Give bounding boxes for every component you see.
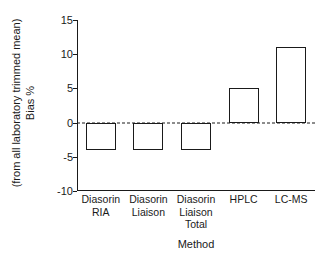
y-axis-tick-label: 10 <box>61 48 73 60</box>
x-axis-tick-label-line: Diasorin <box>129 193 168 206</box>
y-axis-tick-label: -10 <box>57 185 73 197</box>
plot-area <box>77 20 315 191</box>
y-axis-title-line-2: (from all laboratory trimmed mean) <box>9 18 23 187</box>
bar <box>181 123 211 150</box>
y-axis-title: (from all laboratory trimmed mean) Bias … <box>0 0 46 205</box>
x-axis-tick-label: LC-MS <box>275 193 308 206</box>
x-axis-tick-label-line: Diasorin <box>177 193 216 206</box>
y-axis-tick-label: -5 <box>63 151 73 163</box>
bar <box>133 123 163 150</box>
y-axis-tick-label: 15 <box>61 14 73 26</box>
bias-by-method-bar-chart: (from all laboratory trimmed mean) Bias … <box>0 0 325 261</box>
x-axis-tick-label-line: Liaison <box>177 206 216 219</box>
y-axis-title-line-1: Bias % <box>23 18 37 187</box>
bars-layer <box>77 20 315 191</box>
x-axis-tick-label: HPLC <box>230 193 258 206</box>
x-axis-tick-label: DiasorinLiaison <box>129 193 168 218</box>
x-axis-tick-label-line: LC-MS <box>275 193 308 206</box>
x-axis-tick-label-line: Total <box>177 218 216 231</box>
x-axis-tick-label-line: HPLC <box>230 193 258 206</box>
x-axis-tick-label: DiasorinRIA <box>82 193 121 218</box>
y-axis-tick-mark <box>73 191 77 192</box>
x-axis-tick-label-line: RIA <box>82 206 121 219</box>
x-axis-tick-label-line: Diasorin <box>82 193 121 206</box>
x-axis-tick-label: DiasorinLiaisonTotal <box>177 193 216 231</box>
bar <box>229 88 259 122</box>
x-axis-tick-labels: DiasorinRIADiasorinLiaisonDiasorinLiaiso… <box>77 193 315 237</box>
bar <box>276 47 306 122</box>
x-axis-tick-label-line: Liaison <box>129 206 168 219</box>
x-axis-title: Method <box>77 238 315 251</box>
y-axis-tick-labels: 151050-5-10 <box>46 0 76 261</box>
bar <box>86 123 116 150</box>
